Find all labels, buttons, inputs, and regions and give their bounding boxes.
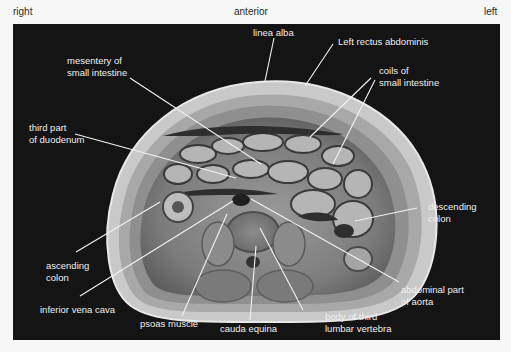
vertebral-body-shape <box>227 212 279 252</box>
label-third-part-of-duodenum: third part of duodenum <box>29 122 84 145</box>
ascending-colon-shape <box>163 192 193 222</box>
label-ascending-colon: ascending colon <box>46 260 89 283</box>
label-cauda-equina: cauda equina <box>220 323 277 335</box>
label-linea-alba: linea alba <box>253 27 294 39</box>
back-muscle-right-shape <box>195 270 251 302</box>
label-abdominal-part-of-aorta: abdominal part of aorta <box>401 284 464 307</box>
orientation-left-label: left <box>484 7 497 17</box>
label-psoas-muscle: psoas muscle <box>140 318 198 330</box>
label-coils-of-small-intestine: coils of small intestine <box>379 65 439 88</box>
inferior-vena-cava-shape <box>232 194 250 206</box>
leader-left-rectus <box>305 44 333 86</box>
psoas-muscle-left-shape <box>273 222 305 266</box>
spinal-canal-shape <box>246 256 260 268</box>
orientation-right-label: right <box>13 7 32 17</box>
label-body-of-third-lumbar-vertebra: body of third lumbar vertebra <box>325 311 392 334</box>
label-inferior-vena-cava: inferior vena cava <box>40 304 115 316</box>
cross-section-photo-panel: linea alba Left rectus abdominis mesente… <box>13 24 500 340</box>
label-left-rectus-abdominis: Left rectus abdominis <box>338 36 428 48</box>
leader-linea-alba <box>265 38 274 81</box>
orientation-anterior-label: anterior <box>234 7 268 17</box>
label-mesentery-of-small-intestine: mesentery of small intestine <box>67 55 127 78</box>
label-descending-colon: descending colon <box>428 201 477 224</box>
